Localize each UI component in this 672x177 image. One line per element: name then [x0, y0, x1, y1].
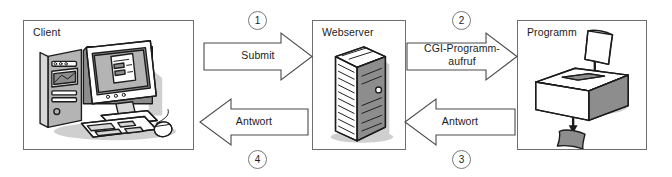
node-client: Client — [23, 20, 194, 150]
step-badge-3: 3 — [452, 150, 471, 169]
arrow-submit: Submit — [203, 32, 313, 81]
node-client-label: Client — [33, 26, 60, 39]
node-programm: Programm — [517, 20, 647, 150]
desktop-computer-icon — [24, 21, 193, 149]
step-badge-2: 2 — [452, 11, 471, 30]
arrow-cgi-call: CGI-Programm- aufruf — [406, 32, 518, 81]
node-webserver-label: Webserver — [322, 26, 373, 39]
program-box-icon — [518, 21, 646, 149]
step-badge-4: 4 — [248, 150, 267, 169]
diagram-canvas: Client — [0, 0, 672, 177]
node-webserver: Webserver — [312, 20, 406, 150]
arrow-answer-to-webserver: Antwort — [404, 98, 516, 146]
step-badge-1: 1 — [248, 11, 267, 30]
node-programm-label: Programm — [527, 26, 577, 39]
arrow-answer-to-client: Antwort — [199, 98, 309, 146]
server-tower-icon — [313, 21, 405, 149]
